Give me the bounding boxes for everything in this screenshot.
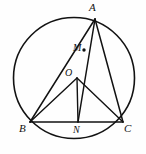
- point-label-b: B: [19, 123, 26, 134]
- segment-an: [78, 19, 95, 122]
- point-label-o: O: [65, 68, 72, 78]
- point-label-n: N: [73, 125, 80, 135]
- point-marker-m: [82, 48, 85, 51]
- point-label-c: C: [124, 123, 131, 134]
- segment-oc: [77, 78, 123, 122]
- segment-on: [77, 78, 78, 122]
- point-label-m: M: [73, 43, 81, 53]
- geometry-figure: A B C N M O: [0, 0, 146, 154]
- segment-ab: [30, 19, 95, 122]
- segment-ac: [95, 19, 123, 122]
- point-label-a: A: [89, 2, 96, 13]
